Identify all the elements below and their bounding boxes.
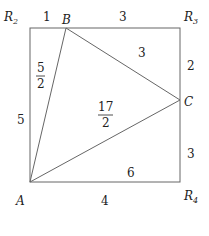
vertex-R4-label: R4 xyxy=(183,189,198,205)
area-label-center-triangle: 17 2 xyxy=(98,100,113,130)
segment-label-top-right: 3 xyxy=(119,10,127,24)
segment-label-right-upper: 2 xyxy=(187,59,195,73)
svg-text:17: 17 xyxy=(98,100,113,114)
svg-text:2: 2 xyxy=(102,116,110,130)
vertex-R3-label: R3 xyxy=(183,10,198,26)
segment-BC xyxy=(66,28,180,100)
segment-label-bottom: 4 xyxy=(101,194,109,208)
area-label-left-triangle: 5 2 xyxy=(36,61,45,91)
segment-label-top-left: 1 xyxy=(43,10,51,24)
segment-AB xyxy=(30,28,66,182)
area-label-top-right-triangle: 3 xyxy=(138,46,146,60)
svg-text:2: 2 xyxy=(37,77,45,91)
vertex-A-label: A xyxy=(15,194,25,208)
area-label-bottom-right-triangle: 6 xyxy=(127,166,135,180)
vertex-R2-label: R2 xyxy=(3,10,18,26)
vertex-C-label: C xyxy=(184,95,193,109)
segment-label-right-lower: 3 xyxy=(187,147,195,161)
geometry-diagram: R2 R3 R4 A B C 1 3 2 3 4 5 5 2 3 17 2 6 xyxy=(0,0,209,236)
svg-text:5: 5 xyxy=(37,61,45,75)
segment-label-left: 5 xyxy=(17,113,25,127)
vertex-B-label: B xyxy=(61,13,71,27)
